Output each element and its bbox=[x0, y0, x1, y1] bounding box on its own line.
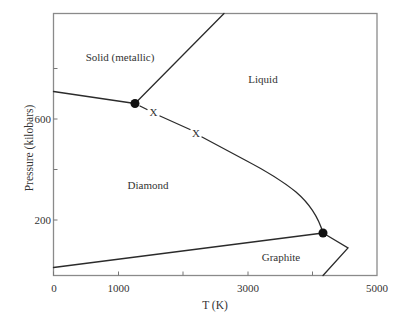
diamond-liquid-boundary bbox=[140, 106, 147, 110]
x-tick-label: 5000 bbox=[366, 282, 389, 294]
x-marker: X bbox=[150, 106, 158, 118]
triple-point-marker bbox=[131, 99, 140, 108]
y-axis-title: Pressure (kilobars) bbox=[23, 105, 36, 192]
region-label-graphite: Graphite bbox=[262, 251, 301, 263]
graphite-liquid-boundary bbox=[323, 233, 348, 276]
region-label-diamond: Diamond bbox=[128, 179, 169, 191]
triple-point-marker bbox=[319, 229, 328, 238]
x-marker: X bbox=[192, 127, 200, 139]
x-tick-label: 1000 bbox=[108, 282, 131, 294]
phase-diagram-chart: 0 1000 3000 5000 200 600 T (K) Pressure … bbox=[0, 0, 404, 326]
region-label-solid-metallic: Solid (metallic) bbox=[86, 51, 155, 64]
region-label-liquid: Liquid bbox=[248, 73, 278, 85]
y-tick-label: 600 bbox=[35, 113, 52, 125]
y-tick-label: 200 bbox=[35, 214, 52, 226]
x-axis-title: T (K) bbox=[202, 299, 228, 312]
x-tick-label: 3000 bbox=[237, 282, 260, 294]
diamond-liquid-boundary bbox=[160, 116, 190, 130]
metallic-diamond-boundary bbox=[54, 92, 136, 104]
x-tick-label: 0 bbox=[51, 282, 57, 294]
diamond-liquid-boundary bbox=[202, 137, 323, 233]
